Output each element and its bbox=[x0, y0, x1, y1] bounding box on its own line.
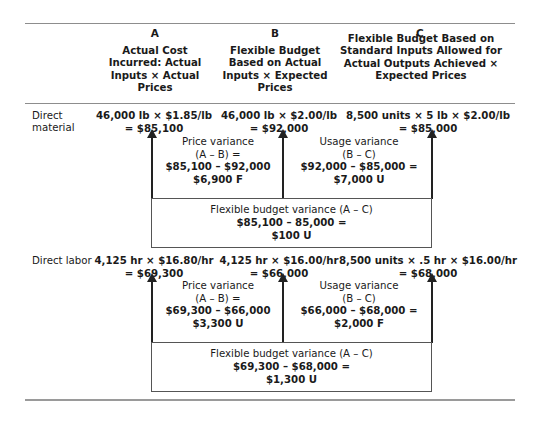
labor-usage-variance-calc: $66,000 – $68,000 = bbox=[286, 305, 432, 318]
labor-fbv-result: $1,300 U bbox=[152, 374, 431, 387]
arrow-up-material-b bbox=[282, 137, 284, 199]
labor-fbv-title: Flexible budget variance (A – C) bbox=[152, 348, 431, 361]
material-flexible-budget-variance: Flexible budget variance (A – C) $85,100… bbox=[152, 204, 431, 242]
cell-material-b-line1: 46,000 lb × $2.00/lb bbox=[221, 110, 337, 121]
labor-flexible-budget-variance-box: Flexible budget variance (A – C) $69,300… bbox=[151, 342, 432, 392]
column-letter-a: A bbox=[105, 27, 205, 39]
column-heading-b: Flexible Budget Based on Actual Inputs ×… bbox=[215, 45, 335, 95]
arrow-up-material-a bbox=[151, 137, 153, 199]
material-usage-variance-title: Usage variance bbox=[286, 136, 432, 149]
column-heading-a: Actual Cost Incurred: Actual Inputs × Ac… bbox=[96, 45, 214, 95]
labor-usage-variance-result: $2,000 F bbox=[286, 318, 432, 331]
cell-material-a-line1: 46,000 lb × $1.85/lb bbox=[96, 110, 212, 121]
labor-price-variance: Price variance (A – B) = $69,300 – $66,0… bbox=[155, 280, 281, 330]
material-price-variance-title: Price variance bbox=[155, 136, 281, 149]
material-usage-variance-result: $7,000 U bbox=[286, 174, 432, 187]
labor-usage-variance: Usage variance (B – C) $66,000 – $68,000… bbox=[286, 280, 432, 330]
labor-price-variance-formula: (A – B) = bbox=[155, 293, 281, 306]
material-usage-variance-calc: $92,000 – $85,000 = bbox=[286, 161, 432, 174]
bottom-divider-rule bbox=[25, 399, 515, 401]
header-divider-rule bbox=[25, 103, 515, 104]
labor-flexible-budget-variance: Flexible budget variance (A – C) $69,300… bbox=[152, 348, 431, 386]
material-fbv-calc: $85,100 – 85,000 = bbox=[152, 217, 431, 230]
labor-fbv-calc: $69,300 – $68,000 = bbox=[152, 361, 431, 374]
material-usage-variance-formula: (B – C) bbox=[286, 149, 432, 162]
material-price-variance-calc: $85,100 – $92,000 bbox=[155, 161, 281, 174]
material-price-variance: Price variance (A – B) = $85,100 – $92,0… bbox=[155, 136, 281, 186]
variance-analysis-diagram: A B C Actual Cost Incurred: Actual Input… bbox=[0, 0, 533, 421]
material-flexible-budget-variance-box: Flexible budget variance (A – C) $85,100… bbox=[151, 198, 432, 248]
cell-labor-a-line1: 4,125 hr × $16.80/hr bbox=[95, 255, 214, 266]
arrow-up-labor-a bbox=[151, 281, 153, 343]
labor-price-variance-title: Price variance bbox=[155, 280, 281, 293]
labor-price-variance-result: $3,300 U bbox=[155, 318, 281, 331]
column-letter-b: B bbox=[225, 27, 325, 39]
cell-material-c-line1: 8,500 units × 5 lb × $2.00/lb bbox=[346, 110, 510, 121]
labor-usage-variance-formula: (B – C) bbox=[286, 293, 432, 306]
top-divider-rule bbox=[25, 23, 515, 24]
column-heading-c: Flexible Budget Based on Standard Inputs… bbox=[336, 33, 506, 83]
material-fbv-result: $100 U bbox=[152, 230, 431, 243]
material-price-variance-formula: (A – B) = bbox=[155, 149, 281, 162]
labor-price-variance-calc: $69,300 – $66,000 bbox=[155, 305, 281, 318]
material-price-variance-result: $6,900 F bbox=[155, 174, 281, 187]
labor-usage-variance-title: Usage variance bbox=[286, 280, 432, 293]
cell-labor-c-line1: 8,500 units × .5 hr × $16.00/hr bbox=[339, 255, 517, 266]
material-usage-variance: Usage variance (B – C) $92,000 – $85,000… bbox=[286, 136, 432, 186]
arrow-up-labor-b bbox=[282, 281, 284, 343]
material-fbv-title: Flexible budget variance (A – C) bbox=[152, 204, 431, 217]
cell-labor-b-line1: 4,125 hr × $16.00/hr bbox=[220, 255, 339, 266]
